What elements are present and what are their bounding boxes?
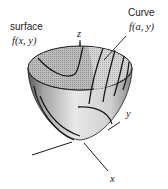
surface-title: surface [10,21,43,32]
paraboloid-diagram: surface f(x, y) Curve f(a, y) z y x [0,0,168,189]
neg-y-axis-line [32,142,72,155]
curve-title: Curve [128,7,155,18]
y-axis-line [108,122,120,130]
y-axis-label: y [125,108,131,119]
x-axis-line [84,143,108,171]
z-axis-label: z [76,28,81,39]
surface-formula: f(x, y) [12,35,37,47]
x-axis-label: x [109,173,115,184]
curve-formula: f(a, y) [129,21,155,33]
